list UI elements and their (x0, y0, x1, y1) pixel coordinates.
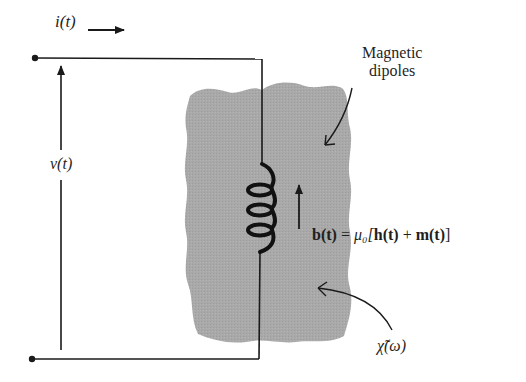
susceptibility-label: χ̃(ω) (377, 338, 406, 354)
equation-mu: μ₀[ (354, 226, 374, 243)
equation-close: ] (445, 226, 450, 243)
top-wire (35, 58, 262, 59)
current-label: i(t) (55, 13, 76, 30)
bottom-terminal (29, 356, 35, 362)
right-wire-lower (259, 252, 260, 359)
voltage-label: v(t) (50, 154, 72, 174)
equation-lhs: b(t) (312, 226, 337, 243)
dipoles-label-line1: Magnetic (362, 44, 422, 62)
flux-density-equation: b(t) = μ₀[h(t) + m(t)] (312, 227, 450, 243)
circuit-diagram (0, 0, 526, 382)
equation-equals: = (337, 226, 354, 243)
equation-plus: + (399, 226, 416, 243)
equation-h: h(t) (374, 226, 399, 243)
dipoles-label-line2: dipoles (362, 62, 422, 80)
magnetic-dipoles-label: Magnetic dipoles (362, 44, 422, 81)
equation-m: m(t) (416, 226, 445, 243)
top-terminal (32, 55, 38, 61)
